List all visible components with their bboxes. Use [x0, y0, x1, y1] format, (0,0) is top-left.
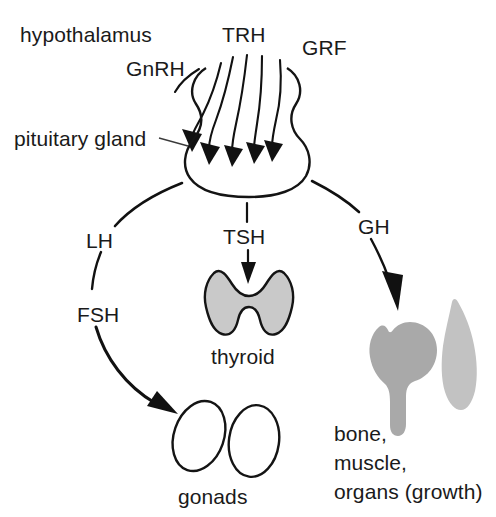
label-targets-muscle: muscle,	[334, 451, 407, 474]
label-gonads: gonads	[178, 485, 248, 508]
label-targets-bone: bone,	[334, 422, 387, 445]
nerve-fiber-4	[254, 56, 262, 149]
nerve-fiber-1	[192, 63, 221, 137]
pituitary-gland-outline	[185, 68, 310, 197]
label-trh: TRH	[222, 23, 265, 46]
label-fsh: FSH	[77, 303, 119, 326]
fiber-arrowhead-2	[200, 142, 220, 165]
fiber-arrowhead-5	[264, 140, 283, 162]
gonads-arrowhead	[147, 391, 178, 414]
label-lh: LH	[86, 229, 113, 252]
label-grf: GRF	[302, 36, 347, 59]
gonad-right	[224, 402, 284, 480]
label-thyroid: thyroid	[211, 345, 275, 368]
hypothalamus-pituitary-diagram: hypothalamus pituitary gland GnRH TRH GR…	[0, 0, 496, 517]
fiber-arrowhead-4	[246, 142, 265, 164]
label-gnrh: GnRH	[126, 57, 185, 80]
nerve-fiber-2	[209, 57, 233, 149]
pituitary-label-leader	[159, 138, 188, 146]
diagram-canvas: hypothalamus pituitary gland GnRH TRH GR…	[0, 0, 496, 517]
nerve-fiber-5	[272, 60, 281, 147]
lh-fsh-arc-middle	[92, 252, 101, 289]
label-pituitary-gland: pituitary gland	[14, 127, 146, 150]
bone-arrowhead	[382, 271, 403, 311]
gh-arc-upper	[312, 181, 359, 212]
label-gh: GH	[358, 215, 390, 238]
lh-fsh-pathway	[92, 183, 182, 414]
lh-arc-upper	[115, 183, 182, 226]
muscle-shape	[442, 299, 477, 410]
fiber-arrowhead-3	[224, 145, 243, 167]
label-hypothalamus: hypothalamus	[20, 23, 152, 46]
label-tsh: TSH	[223, 225, 265, 248]
nerve-fiber-3	[232, 55, 247, 152]
nerve-fiber-group	[182, 55, 283, 167]
gh-pathway	[312, 181, 403, 311]
gonad-left	[164, 394, 235, 478]
label-targets-organs: organs (growth)	[334, 480, 483, 503]
thyroid-arrowhead	[241, 262, 256, 284]
femur-bone-shape	[369, 322, 437, 436]
fsh-arc-lower	[96, 327, 155, 403]
